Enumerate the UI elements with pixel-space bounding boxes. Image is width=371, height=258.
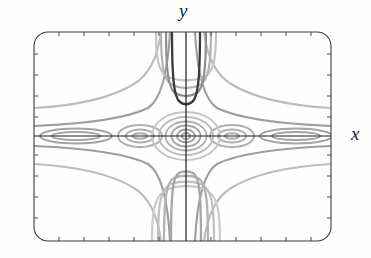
contour-plot-figure: y x <box>0 0 371 258</box>
contour-plot-canvas <box>0 0 371 258</box>
x-axis-label: x <box>351 124 359 143</box>
y-axis-label: y <box>179 1 187 20</box>
